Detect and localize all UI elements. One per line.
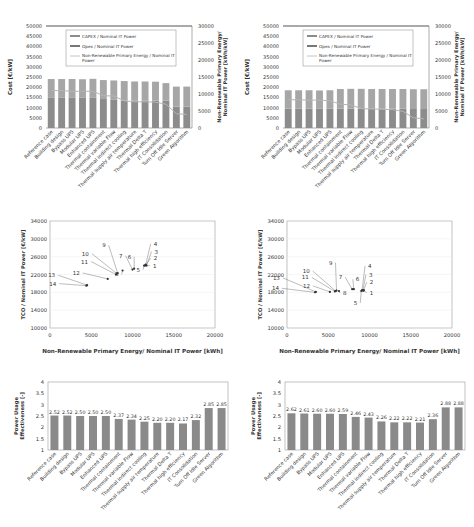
data-label: 2.20 xyxy=(152,417,163,422)
y-axis-title: TCO / Nominal IT Power [€/kW] xyxy=(257,230,263,320)
y-axis-title: Cost [€/kW] xyxy=(244,58,250,95)
x-tick-label: 5000 xyxy=(85,332,98,338)
opex-bar xyxy=(379,89,386,109)
capex-bar xyxy=(89,97,96,128)
capex-bar xyxy=(337,109,344,128)
opex-bar xyxy=(173,87,180,107)
tco-scatter-left-svg: 1000014000180002200026000300003400005000… xyxy=(0,205,237,355)
data-point xyxy=(338,290,340,292)
capex-bar xyxy=(121,100,128,128)
point-label: 5 xyxy=(354,300,358,306)
opex-bar xyxy=(183,87,190,107)
legend: CAPEX / Nominal IT PowerOpex / Nominal I… xyxy=(303,30,413,66)
y-axis-title: Cost [€/kW] xyxy=(7,58,13,95)
x-tick-label: 10000 xyxy=(361,332,378,338)
data-label: 2.50 xyxy=(101,410,112,415)
y2-tick-label: 20000 xyxy=(435,57,451,63)
y-tick-label: 14000 xyxy=(267,307,284,313)
y-tick-label: 0 xyxy=(39,125,42,131)
opex-bar xyxy=(399,89,406,109)
legend-capex: CAPEX / Nominal IT Power xyxy=(82,34,137,39)
data-label: 2.50 xyxy=(88,410,99,415)
cost-chart-left-svg: 0500010000150002000025000300003500040000… xyxy=(0,0,237,200)
opex-bar xyxy=(48,79,55,97)
data-label: 2.88 xyxy=(440,401,451,406)
pue-chart-right: 11.522.533.542.62Reference case2.61Build… xyxy=(237,370,474,527)
y-tick-label: 22000 xyxy=(30,272,47,278)
x-axis-title: Non-Renewable Primary Energy/ Nominal IT… xyxy=(42,348,223,355)
data-label: 2.25 xyxy=(139,416,150,421)
y2-tick-label: 30000 xyxy=(198,23,214,29)
point-label: 2 xyxy=(154,255,158,261)
data-label: 2.60 xyxy=(325,408,336,413)
y-tick-label: 15000 xyxy=(26,94,42,100)
data-label: 2.22 xyxy=(402,416,413,421)
y2-tick-label: 25000 xyxy=(435,40,451,46)
data-point xyxy=(334,290,336,292)
y2-axis-title: Non-Renewable Primary Energy/Nominal IT … xyxy=(216,31,228,122)
legend-opex: Opex / Nominal IT Power xyxy=(82,44,134,49)
pue-chart-left-svg: 11.522.533.542.52Reference case2.52Build… xyxy=(0,370,237,527)
y2-tick-label: 5000 xyxy=(198,108,211,114)
capex-bar xyxy=(142,100,149,128)
data-label: 2.21 xyxy=(415,417,426,422)
data-point xyxy=(143,264,145,266)
data-label: 2.17 xyxy=(178,417,189,422)
pue-bar xyxy=(192,420,200,450)
opex-bar xyxy=(306,90,313,108)
y2-tick-label: 0 xyxy=(435,125,438,131)
data-label: 2.20 xyxy=(165,417,176,422)
y-tick-label: 14000 xyxy=(30,307,47,313)
y-tick-label: 30000 xyxy=(26,64,42,70)
cost-chart-right: 0500010000150002000025000300003500040000… xyxy=(237,0,474,200)
data-point xyxy=(107,278,109,280)
data-point xyxy=(115,273,117,275)
opex-bar xyxy=(121,81,128,100)
tco-scatter-left: 1000014000180002200026000300003400005000… xyxy=(0,205,237,355)
cost-chart-left: 0500010000150002000025000300003500040000… xyxy=(0,0,237,200)
point-label: 6 xyxy=(356,276,360,282)
x-tick-label: 15000 xyxy=(402,332,419,338)
data-point xyxy=(351,288,353,290)
y2-tick-label: 25000 xyxy=(198,40,214,46)
x-tick-label: 10000 xyxy=(124,332,141,338)
tco-scatter-right: 1000014000180002200026000300003400005000… xyxy=(237,205,474,355)
legend-capex: CAPEX / Nominal IT Power xyxy=(319,34,374,39)
y-tick-label: 2 xyxy=(41,424,44,430)
y-tick-label: 10000 xyxy=(267,325,284,331)
opex-bar xyxy=(69,79,76,97)
capex-bar xyxy=(152,100,159,128)
capex-bar xyxy=(326,109,333,128)
y-tick-label: 3 xyxy=(278,402,281,408)
y-tick-label: 50000 xyxy=(263,23,279,29)
y2-tick-label: 10000 xyxy=(435,91,451,97)
opex-bar xyxy=(58,79,65,97)
capex-bar xyxy=(389,109,396,128)
data-label: 2.88 xyxy=(453,401,464,406)
pue-bar xyxy=(166,423,174,450)
point-label: 10 xyxy=(303,268,310,274)
capex-bar xyxy=(316,109,323,128)
capex-bar xyxy=(358,109,365,128)
capex-bar xyxy=(347,109,354,128)
capex-bar xyxy=(48,97,55,128)
pue-bar xyxy=(102,416,110,450)
y-tick-label: 26000 xyxy=(30,254,47,260)
point-label: 5 xyxy=(137,267,141,273)
data-label: 2.52 xyxy=(49,410,60,415)
y2-tick-label: 30000 xyxy=(435,23,451,29)
capex-bar xyxy=(173,107,180,128)
pue-bar xyxy=(442,407,450,450)
pue-bar xyxy=(63,416,71,450)
y-tick-label: 34000 xyxy=(30,218,47,224)
pue-bar xyxy=(429,419,437,450)
opex-bar xyxy=(79,79,86,98)
opex-bar xyxy=(142,81,149,100)
capex-bar xyxy=(58,97,65,128)
data-label: 2.34 xyxy=(126,414,137,419)
pue-bar xyxy=(89,416,97,450)
point-label: 7 xyxy=(119,253,123,259)
y-tick-label: 50000 xyxy=(26,23,42,29)
y-tick-label: 35000 xyxy=(263,54,279,60)
capex-bar xyxy=(69,97,76,128)
